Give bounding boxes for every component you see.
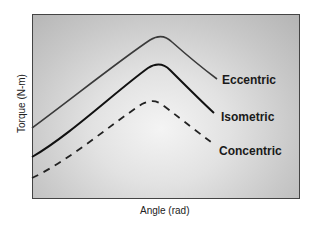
- eccentric-curve: [32, 36, 217, 128]
- x-axis-label: Angle (rad): [140, 205, 189, 216]
- isometric-label: Isometric: [221, 110, 274, 124]
- eccentric-label: Eccentric: [222, 73, 276, 87]
- concentric-label: Concentric: [219, 144, 282, 158]
- y-axis-label: Torque (N-m): [16, 69, 27, 139]
- isometric-curve: [32, 64, 214, 157]
